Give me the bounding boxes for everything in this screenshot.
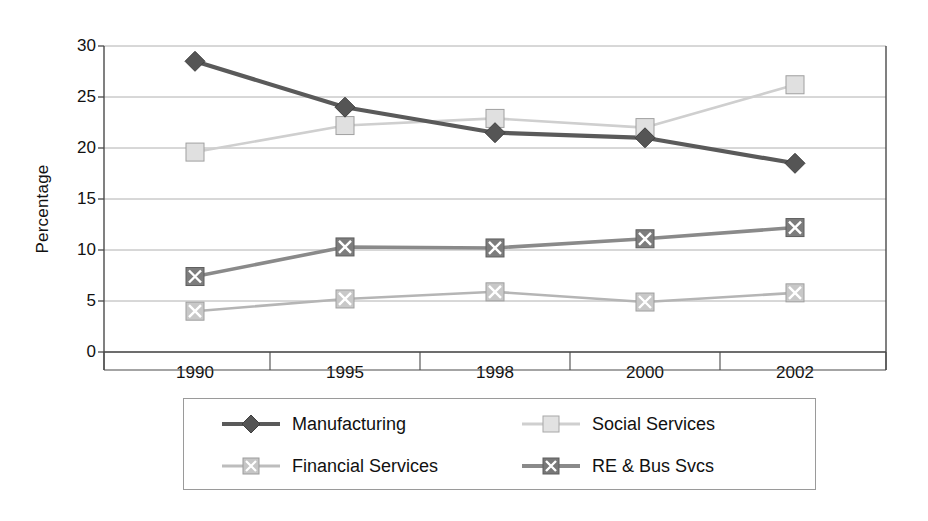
legend-label-manufacturing: Manufacturing <box>292 414 406 435</box>
legend-label-social-services: Social Services <box>592 414 715 435</box>
y-tick-label-30: 30 <box>48 36 96 56</box>
legend: Manufacturing Social Services Financial … <box>183 398 816 490</box>
x-tick-label-2000: 2000 <box>600 363 690 383</box>
legend-entry-social-services[interactable]: Social Services <box>520 411 715 437</box>
y-tick-label-25: 25 <box>48 87 96 107</box>
x-tick-label-1990: 1990 <box>150 363 240 383</box>
legend-key-financial-services-icon <box>220 453 282 479</box>
series-lines <box>195 61 795 311</box>
y-tick-label-5: 5 <box>48 291 96 311</box>
y-tick-label-0: 0 <box>48 342 96 362</box>
legend-entry-financial-services[interactable]: Financial Services <box>220 453 438 479</box>
axis-lines <box>98 46 886 370</box>
y-tick-label-10: 10 <box>48 240 96 260</box>
legend-key-manufacturing-icon <box>220 411 282 437</box>
y-tick-label-20: 20 <box>48 138 96 158</box>
y-tick-label-15: 15 <box>48 189 96 209</box>
x-tick-label-2002: 2002 <box>750 363 840 383</box>
line-chart: Percentage 30 25 20 15 10 5 0 1990 1995 … <box>0 0 928 521</box>
legend-key-re-bus-svcs-icon <box>520 453 582 479</box>
legend-entry-re-bus-svcs[interactable]: RE & Bus Svcs <box>520 453 714 479</box>
legend-label-re-bus-svcs: RE & Bus Svcs <box>592 456 714 477</box>
legend-key-social-services-icon <box>520 411 582 437</box>
x-tick-label-1995: 1995 <box>300 363 390 383</box>
x-tick-label-1998: 1998 <box>450 363 540 383</box>
gridlines <box>104 46 886 352</box>
legend-label-financial-services: Financial Services <box>292 456 438 477</box>
legend-entry-manufacturing[interactable]: Manufacturing <box>220 411 406 437</box>
series-markers <box>185 51 805 320</box>
